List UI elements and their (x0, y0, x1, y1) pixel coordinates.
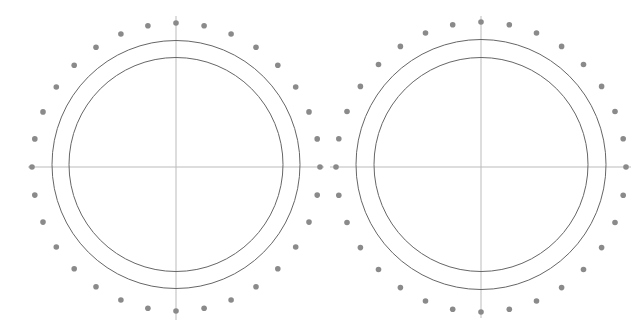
ring-dot (314, 192, 320, 198)
ring-dot (40, 109, 46, 115)
ring-dot (623, 164, 629, 170)
ring-dot (358, 84, 364, 90)
ring-dot (581, 62, 587, 68)
ring-dot (336, 136, 342, 142)
ring-dot (534, 298, 540, 304)
left-circle-diagram (28, 16, 324, 320)
ring-dot (29, 164, 35, 170)
ring-dot (478, 309, 484, 315)
ring-dot (173, 308, 179, 314)
ring-dot (333, 164, 339, 170)
ring-dot (376, 267, 382, 273)
ring-dot (507, 22, 513, 28)
ring-dot (145, 305, 151, 311)
ring-dot (32, 136, 38, 142)
ring-dot (336, 193, 342, 199)
ring-dot (358, 245, 364, 251)
ring-dot (228, 31, 234, 37)
ring-dot (398, 285, 404, 291)
ring-dot (450, 22, 456, 28)
ring-dot (253, 284, 259, 290)
ring-dot (93, 45, 99, 51)
ring-dot (599, 245, 605, 251)
ring-dot (201, 23, 207, 29)
ring-dot (306, 109, 312, 115)
ring-dot (275, 266, 281, 272)
ring-dot (423, 30, 429, 36)
ring-dot (173, 20, 179, 26)
ring-dot (145, 23, 151, 29)
ring-dot (612, 109, 618, 115)
ring-dot (71, 62, 77, 68)
ring-dot (620, 193, 626, 199)
ring-dot (118, 297, 124, 303)
ring-dot (293, 244, 299, 250)
ring-dot (620, 136, 626, 142)
ring-dot (344, 109, 350, 115)
ring-dot (581, 267, 587, 273)
ring-dot (423, 298, 429, 304)
ring-dot (534, 30, 540, 36)
ring-dot (228, 297, 234, 303)
right-circle-diagram (330, 16, 631, 318)
ring-dot (293, 84, 299, 90)
ring-dot (54, 244, 60, 250)
ring-dot (559, 44, 565, 50)
ring-dot (317, 164, 323, 170)
ring-dot (559, 285, 565, 291)
ring-dot (478, 19, 484, 25)
ring-dot (612, 220, 618, 226)
ring-dot (344, 220, 350, 226)
ring-dot (32, 192, 38, 198)
diagram-canvas (0, 0, 637, 335)
ring-dot (398, 44, 404, 50)
ring-dot (507, 306, 513, 312)
ring-dot (450, 306, 456, 312)
ring-dot (306, 219, 312, 225)
ring-dot (54, 84, 60, 90)
ring-dot (118, 31, 124, 37)
ring-dot (376, 62, 382, 68)
ring-dot (253, 45, 259, 51)
ring-dot (599, 84, 605, 90)
ring-dot (71, 266, 77, 272)
ring-dot (93, 284, 99, 290)
ring-dot (40, 219, 46, 225)
ring-dot (201, 305, 207, 311)
ring-dot (314, 136, 320, 142)
ring-dot (275, 62, 281, 68)
